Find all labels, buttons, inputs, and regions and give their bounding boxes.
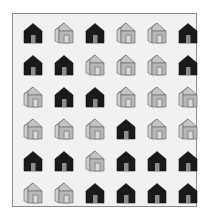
- house-filled-icon: [146, 182, 168, 204]
- house-outline-icon: [115, 54, 137, 76]
- house-cell: [17, 145, 48, 177]
- house-cell: [17, 113, 48, 145]
- house-cell: [141, 17, 172, 49]
- house-cell: [48, 113, 79, 145]
- house-cell: [48, 81, 79, 113]
- house-filled-icon: [22, 54, 44, 76]
- house-cell: [48, 49, 79, 81]
- house-cell: [172, 145, 203, 177]
- house-outline-icon: [146, 118, 168, 140]
- house-filled-icon: [146, 150, 168, 172]
- house-outline-icon: [115, 86, 137, 108]
- house-cell: [141, 81, 172, 113]
- house-outline-icon: [53, 182, 75, 204]
- house-cell: [17, 17, 48, 49]
- house-cell: [110, 81, 141, 113]
- house-grid: [17, 17, 203, 209]
- house-outline-icon: [53, 22, 75, 44]
- house-outline-icon: [22, 118, 44, 140]
- house-cell: [17, 49, 48, 81]
- house-filled-icon: [177, 150, 199, 172]
- house-cell: [110, 113, 141, 145]
- house-cell: [110, 177, 141, 209]
- house-filled-icon: [115, 182, 137, 204]
- house-filled-icon: [115, 118, 137, 140]
- house-cell: [48, 17, 79, 49]
- house-outline-icon: [177, 86, 199, 108]
- house-filled-icon: [177, 54, 199, 76]
- house-outline-icon: [22, 86, 44, 108]
- house-cell: [172, 113, 203, 145]
- house-cell: [79, 81, 110, 113]
- house-cell: [172, 17, 203, 49]
- house-outline-icon: [146, 22, 168, 44]
- house-filled-icon: [53, 54, 75, 76]
- house-cell: [48, 145, 79, 177]
- house-cell: [172, 177, 203, 209]
- house-cell: [141, 177, 172, 209]
- house-cell: [79, 49, 110, 81]
- house-cell: [17, 177, 48, 209]
- house-cell: [79, 17, 110, 49]
- house-filled-icon: [84, 182, 106, 204]
- house-filled-icon: [84, 86, 106, 108]
- house-filled-icon: [84, 22, 106, 44]
- house-cell: [172, 49, 203, 81]
- house-cell: [141, 113, 172, 145]
- house-outline-icon: [177, 118, 199, 140]
- house-outline-icon: [84, 118, 106, 140]
- house-filled-icon: [177, 22, 199, 44]
- house-cell: [110, 49, 141, 81]
- house-cell: [141, 49, 172, 81]
- house-outline-icon: [84, 150, 106, 172]
- house-outline-icon: [22, 182, 44, 204]
- house-filled-icon: [53, 86, 75, 108]
- house-cell: [79, 145, 110, 177]
- house-outline-icon: [84, 54, 106, 76]
- house-cell: [110, 17, 141, 49]
- house-outline-icon: [53, 118, 75, 140]
- house-grid-panel: [12, 13, 197, 207]
- house-filled-icon: [22, 22, 44, 44]
- house-outline-icon: [146, 54, 168, 76]
- house-cell: [79, 177, 110, 209]
- house-cell: [17, 81, 48, 113]
- house-cell: [48, 177, 79, 209]
- house-filled-icon: [22, 150, 44, 172]
- house-cell: [141, 145, 172, 177]
- house-outline-icon: [115, 22, 137, 44]
- house-outline-icon: [146, 86, 168, 108]
- house-filled-icon: [115, 150, 137, 172]
- house-cell: [110, 145, 141, 177]
- house-filled-icon: [177, 182, 199, 204]
- house-cell: [172, 81, 203, 113]
- house-cell: [79, 113, 110, 145]
- house-filled-icon: [53, 150, 75, 172]
